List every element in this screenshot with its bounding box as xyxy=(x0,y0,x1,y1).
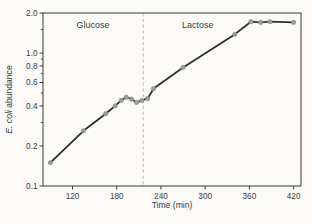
x-axis-title: Time (min) xyxy=(152,200,193,210)
y-tick-label: 0.1 xyxy=(26,182,38,191)
phase-label: Glucose xyxy=(77,20,110,30)
y-tick-label: 2.0 xyxy=(26,9,38,18)
x-tick-label: 300 xyxy=(198,192,212,201)
data-point xyxy=(146,96,150,100)
x-tick-label: 420 xyxy=(287,192,301,201)
y-tick-label: 0.2 xyxy=(26,142,38,151)
growth-chart: 1201802403003604202.01.00.80.60.40.20.1G… xyxy=(0,0,312,224)
data-point xyxy=(81,129,85,133)
x-tick-label: 360 xyxy=(243,192,257,201)
data-point xyxy=(249,20,253,24)
chart-background xyxy=(0,0,312,224)
data-point xyxy=(119,98,123,102)
data-point xyxy=(181,65,185,69)
data-point xyxy=(233,32,237,36)
data-point xyxy=(104,112,108,116)
x-tick-label: 120 xyxy=(66,192,80,201)
data-point xyxy=(134,100,138,104)
data-point xyxy=(129,97,133,101)
data-point xyxy=(258,20,262,24)
y-tick-label: 0.6 xyxy=(26,78,38,87)
data-point xyxy=(124,95,128,99)
phase-label: Lactose xyxy=(182,20,214,30)
y-axis-title: E. coli abundance xyxy=(4,65,14,134)
data-point xyxy=(268,20,272,24)
y-tick-label: 1.0 xyxy=(26,49,38,58)
data-point xyxy=(113,104,117,108)
data-point xyxy=(48,160,52,164)
figure: 1201802403003604202.01.00.80.60.40.20.1G… xyxy=(0,0,312,224)
y-tick-label: 0.4 xyxy=(26,102,38,111)
data-point xyxy=(151,86,155,90)
data-point xyxy=(291,20,295,24)
y-tick-label: 0.8 xyxy=(26,62,38,71)
x-tick-label: 180 xyxy=(110,192,124,201)
data-point xyxy=(140,98,144,102)
